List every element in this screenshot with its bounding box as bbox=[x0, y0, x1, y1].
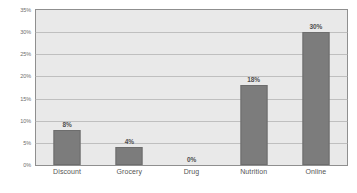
chart-title-strip bbox=[0, 0, 357, 7]
bar-group: 4% bbox=[98, 10, 160, 165]
y-tick-label: 25% bbox=[20, 51, 31, 57]
bars-layer: 8%4%0%18%30% bbox=[36, 10, 347, 165]
bar[interactable] bbox=[54, 130, 81, 165]
bar[interactable] bbox=[116, 147, 143, 165]
x-tick-label: Nutrition bbox=[240, 168, 267, 175]
y-tick-label: 5% bbox=[23, 140, 31, 146]
x-tick-label: Discount bbox=[53, 168, 81, 175]
bar-value-label: 8% bbox=[62, 121, 71, 128]
bar-value-label: 30% bbox=[310, 23, 323, 30]
bar[interactable] bbox=[302, 32, 329, 165]
y-tick-label: 35% bbox=[20, 7, 31, 13]
y-tick-label: 0% bbox=[23, 162, 31, 168]
bar-group: 18% bbox=[223, 10, 285, 165]
x-axis: DiscountGroceryDrugNutritionOnline bbox=[36, 168, 347, 190]
x-tick-label: Online bbox=[305, 168, 326, 175]
y-tick-label: 30% bbox=[20, 29, 31, 35]
y-tick-label: 15% bbox=[20, 96, 31, 102]
y-tick-label: 20% bbox=[20, 73, 31, 79]
bar[interactable] bbox=[240, 85, 267, 165]
y-tick-label: 10% bbox=[20, 118, 31, 124]
bar-group: 8% bbox=[36, 10, 98, 165]
bar-group: 0% bbox=[160, 10, 222, 165]
x-tick-label: Drug bbox=[184, 168, 200, 175]
bar-value-label: 0% bbox=[187, 156, 196, 163]
bar-group: 30% bbox=[285, 10, 347, 165]
y-axis: 0%5%10%15%20%25%30%35% bbox=[0, 0, 35, 193]
bar-value-label: 18% bbox=[247, 76, 260, 83]
bar-chart: 0%5%10%15%20%25%30%35% 8%4%0%18%30% Disc… bbox=[0, 0, 357, 193]
x-tick-label: Grocery bbox=[117, 168, 143, 175]
bar-value-label: 4% bbox=[125, 138, 134, 145]
